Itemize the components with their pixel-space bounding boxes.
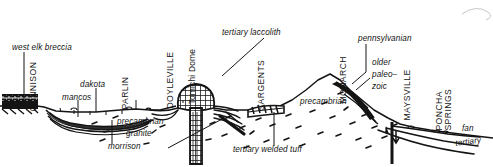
unit-label-granite: granite	[126, 130, 152, 138]
town-label-springs: SPRINGS	[444, 89, 453, 131]
town-label-gunnison: GUNNISON	[29, 62, 38, 112]
feature-label-tomichi-dome: Tomichi Dome	[188, 49, 196, 104]
unit-label-dakota: dakota	[80, 81, 105, 89]
unit-label-tertiary-laccolith: tertiary laccolith	[222, 29, 281, 37]
unit-label-west-elk-breccia: west elk breccia	[12, 44, 72, 52]
unit-label-tertiary-welded-tuff: tertiary welded tuff	[233, 146, 302, 154]
town-label-doyleville: DOYLEVILLE	[166, 52, 175, 109]
town-label-sargents: SARGENTS	[257, 60, 266, 111]
geologic-cross-section-figure: west elk breccia dakota mancos morrison …	[0, 0, 493, 167]
unit-label-zoic: zoic	[372, 83, 387, 91]
town-label-maysville: MAYSVILLE	[403, 69, 412, 120]
unit-label-older: older	[372, 59, 391, 67]
town-label-parlin: PARLIN	[121, 76, 130, 109]
cross-section-drawing	[0, 0, 493, 167]
town-label-monarch: MONARCH	[339, 56, 348, 104]
unit-label-morrison: morrison	[108, 143, 141, 151]
unit-label-pennsylvanian: pennsylvanian	[358, 35, 412, 43]
unit-label-paleo: paleo–	[372, 71, 397, 79]
unit-label-fan: fan	[462, 125, 474, 133]
unit-label-precambrian-left: precambrian	[117, 118, 164, 126]
faint-corner-arc	[462, 8, 491, 20]
unit-label-mancos: mancos	[62, 94, 91, 102]
